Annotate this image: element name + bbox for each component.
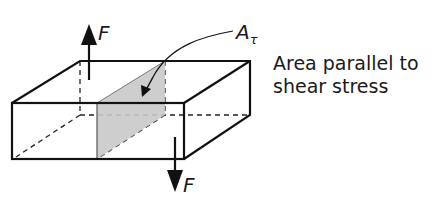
force-arrow-down	[167, 137, 183, 192]
area-symbol-label: Aτ	[234, 20, 258, 47]
caption-line-1: Area parallel to	[273, 52, 419, 75]
area-caption: Area parallel to shear stress	[273, 52, 419, 98]
caption-line-2: shear stress	[273, 75, 419, 98]
force-label-bottom: F	[183, 173, 195, 197]
shear-plane	[97, 61, 165, 159]
force-label-top: F	[98, 21, 110, 45]
shear-stress-diagram: F F Aτ	[0, 0, 439, 201]
force-arrow-up	[81, 24, 97, 80]
